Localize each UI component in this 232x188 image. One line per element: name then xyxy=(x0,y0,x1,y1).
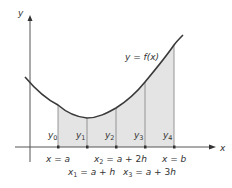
x-labels-top: x = a x2 = a + 2h x = b xyxy=(45,154,187,166)
x-axis-arrow-icon xyxy=(209,145,216,150)
svg-text:y0: y0 xyxy=(47,130,57,142)
x-labels-bottom: x1 = a + h x3 = a + 3h xyxy=(67,167,176,179)
x-axis-label: x xyxy=(219,143,226,153)
integration-diagram: y x y = f(x) y0 y1 y2 y3 y4 x = a x2 = a… xyxy=(0,0,232,188)
curve-label: y = f(x) xyxy=(124,52,159,62)
svg-text:x = b: x = b xyxy=(161,154,187,164)
y-axis-label: y xyxy=(17,8,24,18)
svg-text:x3 = a + 3h: x3 = a + 3h xyxy=(122,167,176,179)
y-axis-arrow-icon xyxy=(28,15,33,21)
svg-text:x2 = a + 2h: x2 = a + 2h xyxy=(93,154,147,166)
svg-text:x = a: x = a xyxy=(45,154,70,164)
svg-text:x1 = a + h: x1 = a + h xyxy=(67,167,116,179)
